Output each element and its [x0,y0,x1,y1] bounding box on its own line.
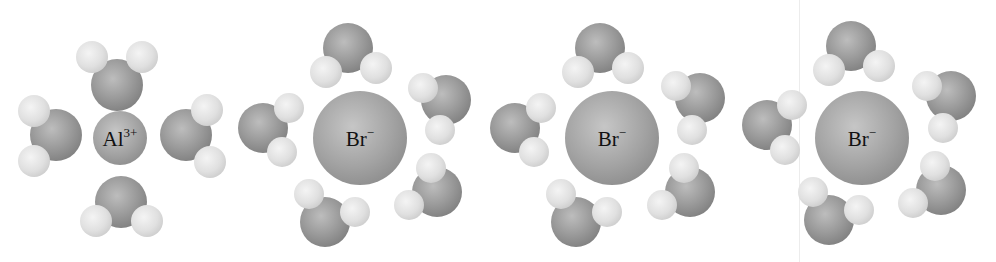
hydrogen-atom [131,205,163,237]
hydrogen-atom [408,73,438,103]
hydrogen-atom [416,153,446,183]
scan-divider-line [799,0,800,262]
ion-sphere: Br− [815,91,909,185]
hydrogen-atom [526,93,556,123]
hydrogen-atom [546,179,576,209]
hydrogen-atom [360,52,392,84]
hydrogen-atom [592,197,622,227]
hydrogen-atom [863,50,895,82]
hydrogen-atom [612,52,644,84]
hydrogen-atom [669,153,699,183]
ion-label: Al3+ [103,125,138,152]
hydrogen-atom [76,41,108,73]
ion-label: Br− [848,125,876,152]
hydrogen-atom [912,71,942,101]
hydrogen-atom [274,93,304,123]
hydrogen-atom [425,115,455,145]
ion-label: Br− [598,125,626,152]
hydrogen-atom [191,94,223,126]
hydrogen-atom [647,190,677,220]
hydrogen-atom [813,54,845,86]
hydrogen-atom [798,177,828,207]
hydrogen-atom [519,137,549,167]
ion-sphere: Br− [313,91,407,185]
hydrogen-atom [928,113,958,143]
ion-sphere: Al3+ [93,111,147,165]
ion-sphere: Br− [565,91,659,185]
hydrogen-atom [920,151,950,181]
hydrogen-atom [844,195,874,225]
hydrogen-atom [562,56,594,88]
hydrogen-atom [394,190,424,220]
hydrogen-atom [777,90,807,120]
hydrogen-atom [18,95,50,127]
hydrogen-atom [267,137,297,167]
hydrogen-atom [898,188,928,218]
hydrogen-atom [661,71,691,101]
hydrogen-atom [80,205,112,237]
hydrogen-atom [194,146,226,178]
hydrogen-atom [770,135,800,165]
hydrogen-atom [310,56,342,88]
hydrogen-atom [294,179,324,209]
hydrogen-atom [340,197,370,227]
hydrated-ions-diagram: Al3+Br−Br−Br− [0,0,996,262]
hydrogen-atom [126,41,158,73]
hydrogen-atom [677,115,707,145]
ion-label: Br− [346,125,374,152]
hydrogen-atom [18,145,50,177]
